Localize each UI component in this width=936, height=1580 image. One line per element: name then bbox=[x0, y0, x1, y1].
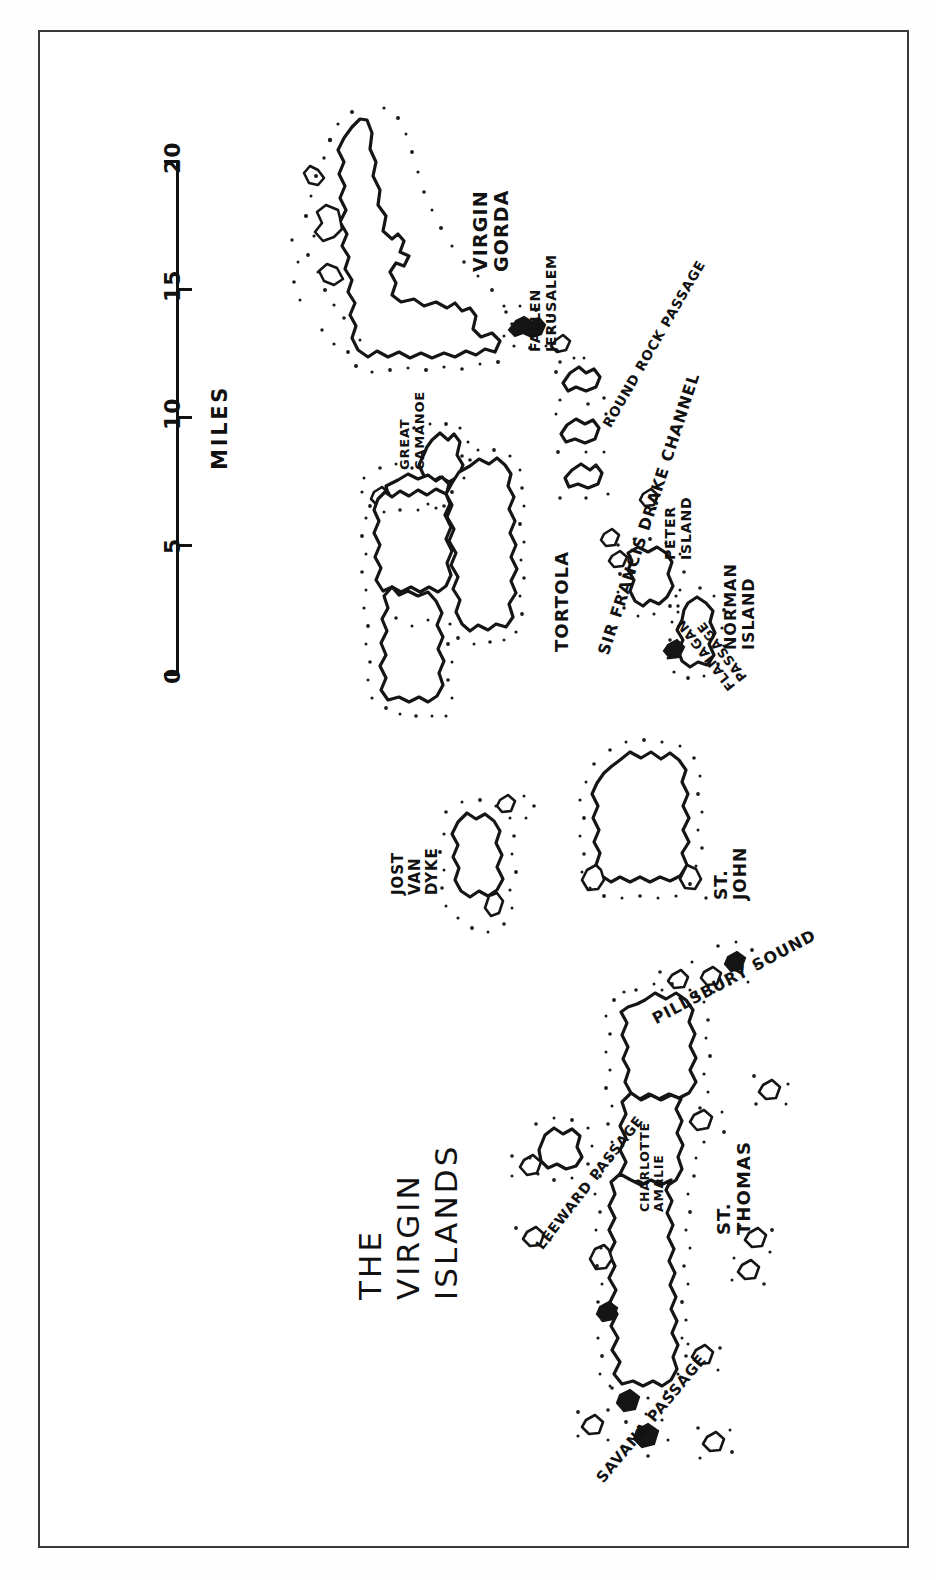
label-charlotte-amalie-line-1: CHARLOTTE bbox=[638, 1122, 652, 1212]
label-charlotte-amalie-line-2: AMALIE bbox=[652, 1122, 666, 1212]
label-virgin-gorda-line-2: GORDA bbox=[491, 189, 512, 272]
label-jost-van-dyke: JOST VAN DYKE bbox=[390, 847, 440, 895]
scale-label-10: 10 bbox=[160, 398, 185, 430]
label-st-thomas-line-1: ST. bbox=[714, 1141, 734, 1235]
label-jost-van-dyke-line-3: DYKE bbox=[424, 847, 441, 895]
label-fallen-jerusalem: FALLEN JERUSALEM bbox=[528, 254, 559, 352]
label-st-john-line-1: ST. bbox=[712, 847, 731, 900]
map-title: THE VIRGIN ISLANDS bbox=[352, 1144, 465, 1300]
label-great-camanoe-line-2: CAMANOE bbox=[413, 391, 428, 470]
scale-bar: 20 15 10 5 0 bbox=[176, 160, 179, 676]
label-fallen-jerusalem-line-2: JERUSALEM bbox=[544, 254, 560, 352]
map-title-line-3: ISLANDS bbox=[428, 1144, 466, 1300]
label-great-camanoe: GREAT CAMANOE bbox=[398, 391, 427, 470]
map-page: .coast { fill:#ffffff; stroke:#151515; s… bbox=[0, 0, 936, 1580]
label-virgin-gorda-line-1: VIRGIN bbox=[470, 189, 491, 272]
scale-label-15: 15 bbox=[160, 270, 185, 302]
scale-label-0: 0 bbox=[160, 668, 185, 684]
label-peter-island: PETER ISLAND bbox=[663, 497, 694, 560]
scale-units-label: MILES bbox=[208, 385, 232, 470]
label-norman-island: NORMAN ISLAND bbox=[722, 563, 758, 650]
label-peter-island-line-1: PETER bbox=[663, 497, 679, 560]
scale-label-5: 5 bbox=[160, 538, 185, 554]
label-st-john: ST. JOHN bbox=[712, 847, 750, 900]
label-norman-island-line-1: NORMAN bbox=[722, 563, 740, 650]
label-norman-island-line-2: ISLAND bbox=[740, 563, 758, 650]
map-title-line-1: THE bbox=[352, 1144, 390, 1300]
label-fallen-jerusalem-line-1: FALLEN bbox=[528, 254, 544, 352]
map-title-line-2: VIRGIN bbox=[390, 1144, 428, 1300]
label-peter-island-line-2: ISLAND bbox=[679, 497, 695, 560]
label-st-thomas: ST. THOMAS bbox=[714, 1141, 754, 1235]
label-st-john-line-2: JOHN bbox=[731, 847, 750, 900]
label-st-thomas-line-2: THOMAS bbox=[734, 1141, 754, 1235]
label-great-camanoe-line-1: GREAT bbox=[398, 391, 413, 470]
label-jost-van-dyke-line-1: JOST bbox=[390, 847, 407, 895]
label-tortola: TORTOLA bbox=[553, 551, 571, 652]
label-virgin-gorda: VIRGIN GORDA bbox=[470, 189, 513, 272]
label-jost-van-dyke-line-2: VAN bbox=[407, 847, 424, 895]
label-charlotte-amalie: CHARLOTTE AMALIE bbox=[638, 1122, 666, 1212]
scale-label-20: 20 bbox=[160, 142, 185, 174]
